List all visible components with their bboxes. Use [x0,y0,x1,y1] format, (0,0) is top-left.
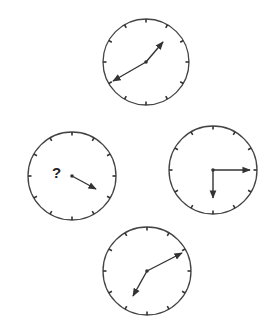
question-mark-label: ? [52,164,61,181]
center-pivot [144,60,148,64]
clock-left-unknown: ? [28,132,116,220]
clock-bottom [103,227,191,315]
center-pivot [145,269,149,273]
center-pivot [211,168,215,172]
clock-right [169,126,257,214]
clock-top [103,19,189,105]
center-pivot [70,174,74,178]
clock-puzzle-diagram: ? [0,0,274,335]
